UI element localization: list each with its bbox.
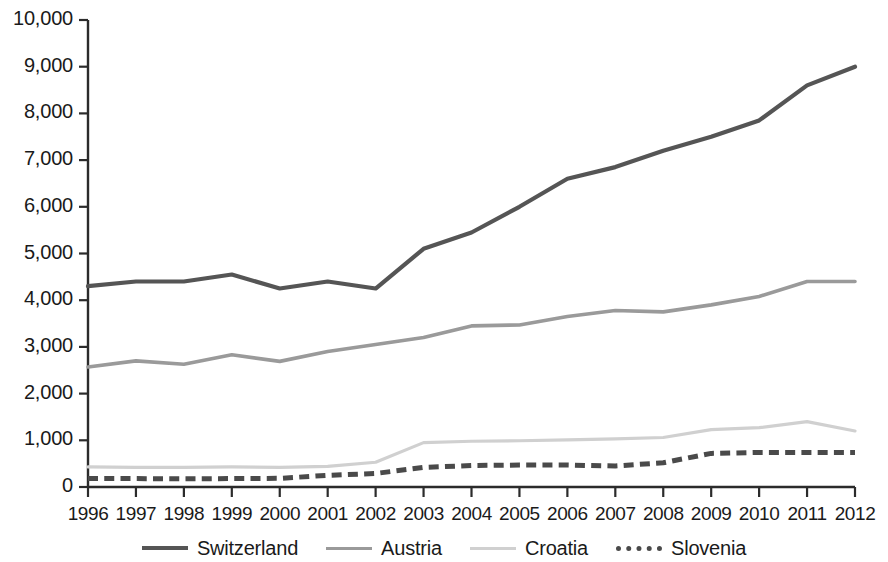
- legend-item-croatia[interactable]: Croatia: [470, 537, 588, 560]
- series-line-austria: [88, 282, 855, 367]
- y-tick-label: 4,000: [24, 287, 73, 310]
- axis-lines: [88, 20, 855, 487]
- line-chart: 01,0002,0003,0004,0005,0006,0007,0008,00…: [0, 0, 888, 562]
- chart-legend: SwitzerlandAustriaCroatiaSlovenia: [0, 534, 888, 562]
- data-series-group: [88, 67, 855, 479]
- y-tick-label: 0: [62, 474, 73, 497]
- y-tick-label: 3,000: [24, 334, 73, 357]
- chart-plot-area: [0, 0, 888, 562]
- series-line-croatia: [88, 422, 855, 468]
- legend-swatch-austria-icon: [326, 547, 372, 550]
- y-tick-label: 5,000: [24, 241, 73, 264]
- legend-label: Switzerland: [197, 537, 298, 560]
- series-line-switzerland: [88, 67, 855, 289]
- y-tick-label: 2,000: [24, 381, 73, 404]
- legend-item-slovenia[interactable]: Slovenia: [616, 537, 746, 560]
- legend-label: Austria: [381, 537, 442, 560]
- legend-item-switzerland[interactable]: Switzerland: [142, 537, 298, 560]
- legend-swatch-switzerland-icon: [142, 546, 188, 550]
- y-tick-label: 8,000: [24, 100, 73, 123]
- y-tick-label: 1,000: [24, 427, 73, 450]
- legend-swatch-slovenia-icon: [616, 546, 662, 551]
- legend-label: Croatia: [525, 537, 588, 560]
- legend-label: Slovenia: [671, 537, 746, 560]
- legend-item-austria[interactable]: Austria: [326, 537, 442, 560]
- y-tick-label: 6,000: [24, 194, 73, 217]
- legend-swatch-croatia-icon: [470, 547, 516, 550]
- y-tick-label: 9,000: [24, 54, 73, 77]
- y-tick-label: 10,000: [13, 7, 73, 30]
- y-axis-ticks: [79, 20, 88, 487]
- y-tick-label: 7,000: [24, 147, 73, 170]
- x-axis-ticks: [88, 487, 855, 497]
- x-tick-label: 2012: [825, 503, 885, 525]
